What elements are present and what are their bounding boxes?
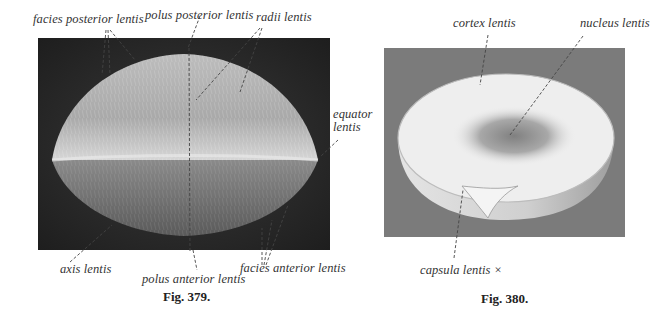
label-polus-posterior-lentis: polus posterior lentis [145, 8, 253, 23]
label-nucleus-lentis: nucleus lentis [580, 16, 650, 31]
label-facies-anterior-lentis: facies anterior lentis [240, 261, 346, 276]
figure-379-illustration [38, 38, 330, 250]
label-polus-anterior-lentis: polus anterior lentis [142, 272, 246, 287]
figure-380-illustration [384, 48, 625, 237]
label-radii-lentis: radii lentis [256, 10, 312, 25]
lens-exterior-image [38, 38, 330, 250]
label-axis-lentis: axis lentis [60, 262, 111, 277]
label-equator-lentis-line2: lentis [333, 120, 361, 135]
label-capsula-lentis: capsula lentis × [420, 263, 502, 278]
label-facies-posterior-lentis: facies posterior lentis [33, 12, 144, 27]
lens-section-image [384, 48, 625, 237]
label-cortex-lentis: cortex lentis [453, 16, 516, 31]
figure-379-caption: Fig. 379. [163, 289, 210, 305]
figure-380-caption: Fig. 380. [481, 291, 528, 307]
